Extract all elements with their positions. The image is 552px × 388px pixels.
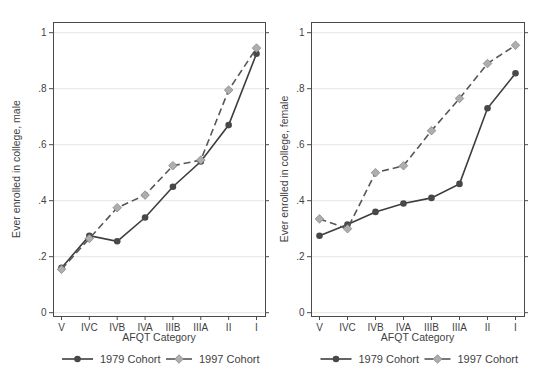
data-point-1997-cohort xyxy=(252,44,261,53)
x-tick-label: IVC xyxy=(339,322,356,333)
y-tick-label: .6 xyxy=(296,139,305,150)
legend: 1979 Cohort1997 Cohort xyxy=(321,353,519,365)
y-tick-label: .2 xyxy=(38,251,47,262)
data-point-1979-cohort xyxy=(484,105,491,112)
series-line-1979-cohort xyxy=(320,73,516,235)
plot-border xyxy=(311,22,524,316)
data-point-1979-cohort xyxy=(428,195,435,202)
y-tick-label: .6 xyxy=(38,139,47,150)
chart-canvas: 0.2.4.6.81VIVCIVBIVAIIIBIIIAIIIAFQT Cate… xyxy=(0,0,552,388)
data-point-1997-cohort xyxy=(483,59,492,68)
data-point-1979-cohort xyxy=(400,200,407,207)
x-axis-title: AFQT Category xyxy=(122,331,196,343)
legend-marker-diamond xyxy=(433,355,442,364)
x-tick-label: IIIA xyxy=(452,322,467,333)
data-point-1997-cohort xyxy=(511,41,520,50)
data-point-1997-cohort xyxy=(315,215,324,224)
legend-marker-circle xyxy=(74,356,81,363)
y-axis-title: Ever enrolled in college, male xyxy=(10,100,22,238)
y-tick-label: .8 xyxy=(38,83,47,94)
y-tick-label: 0 xyxy=(299,307,305,318)
college-enrollment-figure: 0.2.4.6.81VIVCIVBIVAIIIBIIIAIIIAFQT Cate… xyxy=(0,0,552,388)
y-tick-label: 1 xyxy=(41,27,47,38)
x-tick-label: V xyxy=(58,322,65,333)
data-point-1979-cohort xyxy=(170,183,177,190)
data-point-1979-cohort xyxy=(512,70,519,77)
x-tick-label: I xyxy=(255,322,258,333)
y-axis-title: Ever enrolled in college, female xyxy=(278,96,290,243)
y-tick-label: .4 xyxy=(296,195,305,206)
data-point-1997-cohort xyxy=(371,168,380,177)
data-point-1979-cohort xyxy=(316,232,323,239)
y-tick-label: .8 xyxy=(296,83,305,94)
y-tick-label: 1 xyxy=(299,27,305,38)
y-tick-label: .4 xyxy=(38,195,47,206)
legend-label: 1997 Cohort xyxy=(199,353,260,365)
legend: 1979 Cohort1997 Cohort xyxy=(62,353,260,365)
legend-label: 1979 Cohort xyxy=(359,353,420,365)
data-point-1979-cohort xyxy=(456,181,463,188)
data-point-1997-cohort xyxy=(224,86,233,95)
legend-marker-circle xyxy=(333,356,340,363)
x-tick-label: V xyxy=(316,322,323,333)
legend-marker-diamond xyxy=(175,355,184,364)
x-tick-label: II xyxy=(485,322,491,333)
data-point-1997-cohort xyxy=(141,191,150,200)
x-axis-title: AFQT Category xyxy=(381,331,455,343)
legend-label: 1997 Cohort xyxy=(458,353,519,365)
plot-border xyxy=(53,22,265,316)
x-tick-label: II xyxy=(226,322,232,333)
x-tick-label: I xyxy=(514,322,517,333)
data-point-1979-cohort xyxy=(142,214,149,221)
legend-label: 1979 Cohort xyxy=(100,353,161,365)
y-tick-label: 0 xyxy=(41,307,47,318)
data-point-1979-cohort xyxy=(372,209,379,216)
data-point-1979-cohort xyxy=(225,122,232,129)
x-tick-label: IVC xyxy=(81,322,98,333)
y-tick-label: .2 xyxy=(296,251,305,262)
panel-female: 0.2.4.6.81VIVCIVBIVAIIIBIIIAIIIAFQT Cate… xyxy=(278,22,528,365)
data-point-1979-cohort xyxy=(114,238,121,245)
panel-male: 0.2.4.6.81VIVCIVBIVAIIIBIIIAIIIAFQT Cate… xyxy=(10,22,269,365)
